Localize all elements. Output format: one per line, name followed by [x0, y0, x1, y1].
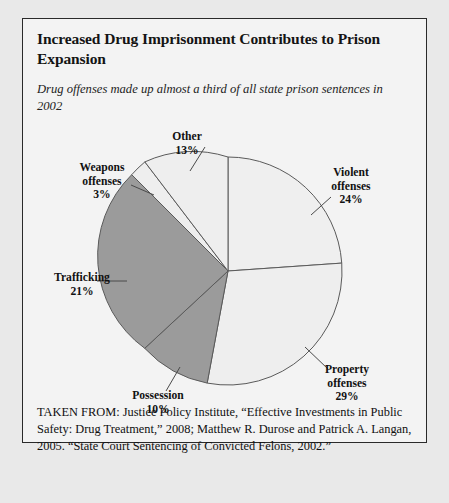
- pie-label-violent-name: Violent: [333, 166, 369, 179]
- figure-source-note: TAKEN FROM: Justice Policy Institute, “E…: [37, 404, 415, 455]
- figure-frame: Increased Drug Imprisonment Contributes …: [22, 18, 427, 443]
- pie-label-violent: Violent offenses 24%: [309, 166, 393, 207]
- pie-label-property: Property offenses 29%: [305, 363, 389, 404]
- pie-label-property-pct: 29%: [305, 390, 389, 404]
- pie-label-trafficking-name: Trafficking: [54, 271, 110, 284]
- pie-label-possession-name: Possession: [132, 389, 184, 402]
- pie-label-other: Other 13%: [153, 130, 221, 157]
- pie-label-weapons-name: Weapons: [79, 161, 124, 174]
- pie-label-trafficking-pct: 21%: [35, 285, 129, 299]
- pie-label-weapons: Weapons offenses 3%: [59, 161, 145, 202]
- pie-label-property-name: Property: [325, 363, 369, 376]
- pie-label-trafficking: Trafficking 21%: [35, 271, 129, 298]
- pie-label-other-pct: 13%: [153, 144, 221, 158]
- pie-label-weapons-pct: 3%: [59, 188, 145, 202]
- pie-label-weapons-name2: offenses: [59, 175, 145, 189]
- pie-chart: Other 13% Weapons offenses 3% Traffickin…: [23, 19, 428, 444]
- pie-label-violent-pct: 24%: [309, 193, 393, 207]
- pie-label-other-name: Other: [172, 130, 202, 143]
- pie-label-property-name2: offenses: [305, 377, 389, 391]
- pie-label-violent-name2: offenses: [309, 180, 393, 194]
